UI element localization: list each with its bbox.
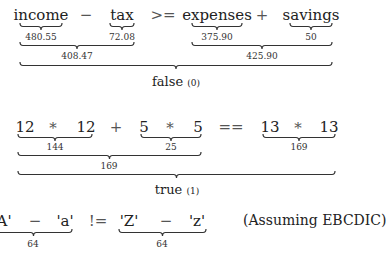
result-underbrace: [20, 62, 332, 69]
underbrace: [141, 134, 201, 141]
underbrace: [110, 23, 134, 30]
underbrace: [20, 23, 62, 30]
underbrace: [263, 134, 335, 141]
underbrace: [20, 42, 134, 49]
underbrace: [119, 229, 206, 236]
underbrace: [18, 152, 201, 159]
underbrace: [192, 23, 242, 30]
underbrace: [290, 23, 332, 30]
underbrace: [18, 134, 92, 141]
underbrace: [0, 229, 72, 236]
result-underbrace: [18, 171, 335, 178]
underbrace: [192, 42, 332, 49]
